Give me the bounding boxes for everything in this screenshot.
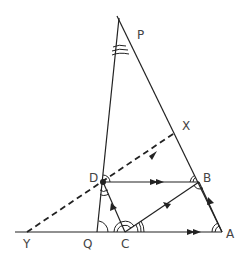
label-Y: Y bbox=[22, 237, 31, 251]
geometry-diagram: P X D B Y Q C A bbox=[0, 0, 244, 261]
label-C: C bbox=[121, 237, 129, 251]
line-CB bbox=[125, 182, 199, 232]
label-X: X bbox=[182, 119, 190, 133]
line-PA bbox=[117, 16, 222, 232]
point-D-dot bbox=[100, 179, 106, 185]
label-Q: Q bbox=[83, 237, 92, 251]
label-P: P bbox=[137, 28, 144, 42]
parallel-arrows bbox=[110, 151, 214, 235]
label-D: D bbox=[89, 171, 98, 185]
line-AB bbox=[199, 182, 222, 232]
label-A: A bbox=[226, 227, 235, 241]
angle-marks bbox=[99, 45, 219, 232]
label-B: B bbox=[203, 171, 211, 185]
